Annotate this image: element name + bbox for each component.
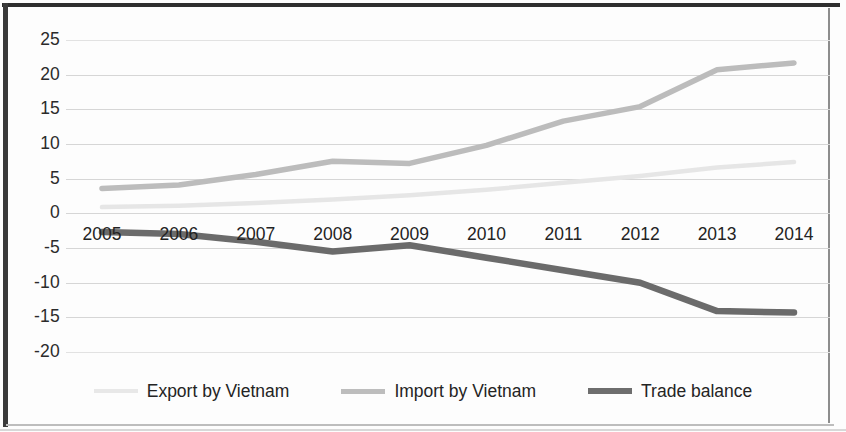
legend-label: Export by Vietnam — [147, 381, 290, 402]
y-axis-labels: 2520151050-5-10-15-20 — [12, 40, 60, 352]
gridline — [66, 352, 830, 353]
x-axis-tick-label: 2006 — [144, 224, 214, 245]
x-axis-tick-label: 2005 — [67, 224, 137, 245]
y-axis-tick-label: -10 — [14, 272, 60, 293]
y-axis-tick-label: 0 — [14, 202, 60, 223]
legend-item[interactable]: Import by Vietnam — [341, 381, 536, 402]
legend-item[interactable]: Export by Vietnam — [94, 381, 290, 402]
y-axis-tick-label: -5 — [14, 237, 60, 258]
x-axis-labels: 2005200620072008200920102011201220132014 — [66, 224, 830, 248]
y-axis-tick-label: 15 — [14, 98, 60, 119]
x-axis-tick-label: 2011 — [528, 224, 598, 245]
x-axis-tick-label: 2007 — [221, 224, 291, 245]
x-axis-tick-label: 2010 — [451, 224, 521, 245]
chart-figure: 2520151050-5-10-15-20 200520062007200820… — [0, 0, 846, 432]
series-line — [102, 162, 794, 207]
y-axis-tick-label: -20 — [14, 341, 60, 362]
y-axis-tick-label: 10 — [14, 133, 60, 154]
figure-border-bottom-outer — [0, 429, 846, 431]
data-series-layer — [66, 40, 830, 352]
legend-swatch-icon — [588, 388, 632, 394]
x-axis-tick-label: 2008 — [298, 224, 368, 245]
legend-label: Trade balance — [641, 381, 752, 402]
y-axis-tick-label: 25 — [14, 29, 60, 50]
x-axis-tick-label: 2012 — [605, 224, 675, 245]
figure-border-left — [3, 3, 8, 427]
x-axis-tick-label: 2013 — [682, 224, 752, 245]
legend-item[interactable]: Trade balance — [588, 381, 752, 402]
y-axis-tick-label: 20 — [14, 64, 60, 85]
y-axis-tick-label: 5 — [14, 168, 60, 189]
figure-border-bottom — [6, 424, 834, 426]
x-axis-tick-label: 2009 — [375, 224, 445, 245]
plot-area — [66, 40, 830, 352]
chart-legend: Export by VietnamImport by VietnamTrade … — [0, 377, 846, 405]
x-axis-tick-label: 2014 — [759, 224, 829, 245]
y-axis-tick-label: -15 — [14, 306, 60, 327]
legend-label: Import by Vietnam — [394, 381, 536, 402]
figure-border-top — [2, 3, 840, 7]
legend-swatch-icon — [94, 389, 138, 393]
legend-swatch-icon — [341, 389, 385, 394]
